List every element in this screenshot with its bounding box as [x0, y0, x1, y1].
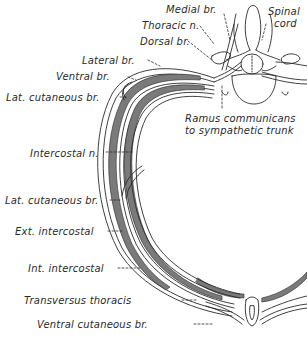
- label-transversus-thoracis: Transversus thoracis: [24, 295, 131, 306]
- label-lat-cutaneous-branch-lower: Lat. cutaneous br.: [5, 195, 99, 206]
- label-ext-intercostal: Ext. intercostal: [15, 226, 94, 237]
- label-dorsal-branch: Dorsal br.: [140, 36, 190, 47]
- sternum: [206, 296, 307, 326]
- label-ventral-branch: Ventral br.: [56, 71, 110, 82]
- label-ramus-communicans-line2: to sympathetic trunk: [185, 125, 294, 137]
- label-ramus-communicans-line1: Ramus communicans: [185, 113, 296, 125]
- right-nerve-stub: [262, 62, 307, 84]
- label-spinal-cord-line2: cord: [274, 18, 297, 30]
- thoracic-nerve-diagram: [0, 0, 307, 343]
- label-int-intercostal: Int. intercostal: [28, 263, 104, 274]
- label-thoracic-nerve: Thoracic n.: [142, 20, 199, 31]
- label-medial-branch: Medial br.: [166, 4, 217, 15]
- label-ventral-cutaneous-branch: Ventral cutaneous br.: [37, 319, 148, 330]
- label-lateral-branch: Lateral br.: [82, 55, 135, 66]
- label-intercostal-nerve: Intercostal n.: [30, 148, 99, 159]
- label-spinal-cord-line1: Spinal: [268, 6, 300, 18]
- label-lat-cutaneous-branch-upper: Lat. cutaneous br.: [6, 92, 100, 103]
